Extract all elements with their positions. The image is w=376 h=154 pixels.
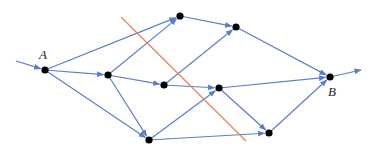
edge-n6-to-n7	[219, 88, 266, 130]
node-n5	[145, 136, 152, 143]
node-n6	[215, 84, 222, 91]
edge-n7-to-B	[269, 80, 327, 133]
edge-n4-to-B	[236, 27, 326, 75]
edge-B-to-out	[330, 70, 361, 77]
edge-A-to-n5	[45, 70, 145, 137]
flow-network-diagram: A B	[0, 0, 376, 154]
edge-n2-to-n3	[108, 75, 160, 84]
source-label-a: A	[38, 47, 47, 62]
nodes	[41, 12, 333, 143]
edge-A-to-n2	[45, 70, 104, 75]
node-A	[41, 66, 48, 73]
node-n2	[104, 71, 111, 78]
edges	[16, 16, 361, 140]
node-n3	[160, 81, 167, 88]
sink-label-b: B	[328, 84, 336, 99]
edge-n2-to-n1	[108, 19, 177, 75]
edge-A-to-n1	[45, 18, 176, 70]
edge-n1-to-n4	[180, 16, 232, 26]
node-n7	[265, 129, 272, 136]
node-n1	[176, 12, 183, 19]
edge-n6-to-B	[219, 77, 326, 88]
edge-in-to-A	[16, 61, 41, 69]
node-B	[326, 73, 333, 80]
edge-n3-to-n4	[164, 30, 232, 85]
edge-n2-to-n5	[108, 75, 147, 136]
cut-line	[121, 17, 246, 141]
edge-n5-to-n6	[149, 91, 215, 140]
edge-n5-to-n7	[149, 133, 265, 140]
node-n4	[232, 23, 239, 30]
